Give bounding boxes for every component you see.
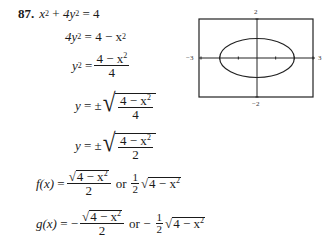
x-min-label: −3 xyxy=(186,54,193,62)
equation-1: 87. x2 + 4y2 = 4 xyxy=(18,6,100,22)
square-root: √ 4 − x2 2 xyxy=(102,130,156,161)
equation-3: y2 = 4 − x2 4 xyxy=(72,52,131,79)
problem-number: 87. xyxy=(18,6,34,22)
equation-2: 4y2 = 4 − x2 xyxy=(65,29,126,45)
fraction: 4 − x2 4 xyxy=(94,52,129,79)
function-g: g(x) = − √4 − x2 2 or − 12 √4 − x2 xyxy=(36,210,205,237)
x-max-label: 3 xyxy=(318,54,322,62)
y-min-label: −2 xyxy=(252,100,259,108)
equation-4: y = ± √ 4 − x2 4 xyxy=(75,90,156,121)
y-max-label: 2 xyxy=(254,8,258,16)
equation-5: y = ± √ 4 − x2 2 xyxy=(75,130,156,161)
function-f: f(x) = √4 − x2 2 or 12 √4 − x2 xyxy=(36,170,181,197)
ellipse-graph: 2 −2 −3 3 xyxy=(186,8,330,116)
square-root: √ 4 − x2 4 xyxy=(102,90,156,121)
